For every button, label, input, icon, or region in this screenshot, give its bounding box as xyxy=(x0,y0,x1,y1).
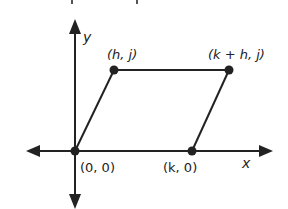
point-label-khj: (k + h, j) xyxy=(208,48,265,61)
y-axis-label: y xyxy=(83,30,91,44)
cropped-text-fragment xyxy=(136,0,138,4)
parallelogram-diagram: y x (h, j) (k + h, j) (0, 0) (k, 0) xyxy=(0,0,288,209)
y-axis xyxy=(69,19,81,209)
y-axis-down-arrow-icon xyxy=(69,194,81,209)
cropped-text-fragment xyxy=(71,0,73,4)
coordinate-plane xyxy=(0,0,288,209)
point-label-origin: (0, 0) xyxy=(80,161,115,174)
vertex-k0-dot xyxy=(188,147,197,156)
x-axis-label: x xyxy=(242,156,250,170)
x-axis-right-arrow-icon xyxy=(259,145,273,157)
point-label-k0: (k, 0) xyxy=(163,161,197,174)
parallelogram xyxy=(75,70,229,151)
vertex-khj-dot xyxy=(225,66,234,75)
y-axis-up-arrow-icon xyxy=(69,19,81,34)
x-axis-left-arrow-icon xyxy=(26,145,40,157)
point-label-hj: (h, j) xyxy=(107,48,137,61)
vertex-hj-dot xyxy=(110,66,119,75)
vertex-origin-dot xyxy=(71,147,80,156)
